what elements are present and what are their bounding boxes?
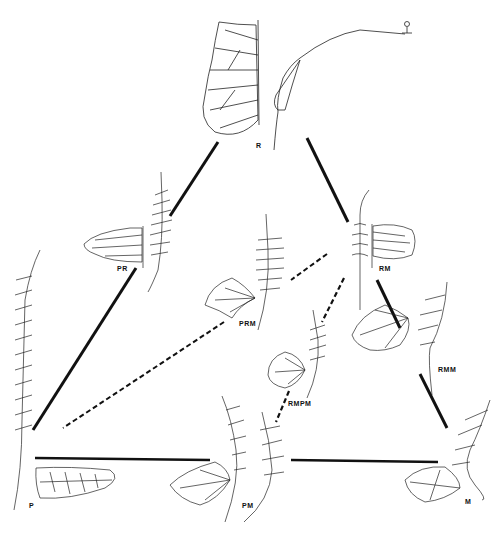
fern-rmpm <box>268 310 326 398</box>
edge-rm-rmpm <box>322 278 344 322</box>
fern-prm <box>205 214 284 330</box>
fern-pr <box>84 172 172 292</box>
edge-pm-m <box>291 460 438 462</box>
label-m: M <box>465 498 471 505</box>
edge-r-pr <box>170 142 218 216</box>
label-rmm: RMM <box>438 366 456 373</box>
edge-rm-prm <box>291 254 327 280</box>
edge-prm-p <box>63 322 224 428</box>
label-rm: RM <box>379 265 391 272</box>
edge-r-rm <box>307 138 348 222</box>
label-prm: PRM <box>239 320 256 327</box>
label-r: R <box>256 142 262 149</box>
label-p: P <box>29 502 34 509</box>
edge-pr-p <box>33 268 136 430</box>
fern-diagram <box>0 0 502 534</box>
edge-p-pm <box>35 458 210 460</box>
label-pm: PM <box>242 502 254 509</box>
edge-rmm-m <box>420 374 447 428</box>
fern-rmm <box>352 282 447 395</box>
label-pr: PR <box>117 265 128 272</box>
edge-rm-rmm <box>377 280 400 328</box>
fern-r <box>203 20 412 150</box>
label-rmpm: RMPM <box>288 400 311 407</box>
fern-m <box>405 400 490 502</box>
